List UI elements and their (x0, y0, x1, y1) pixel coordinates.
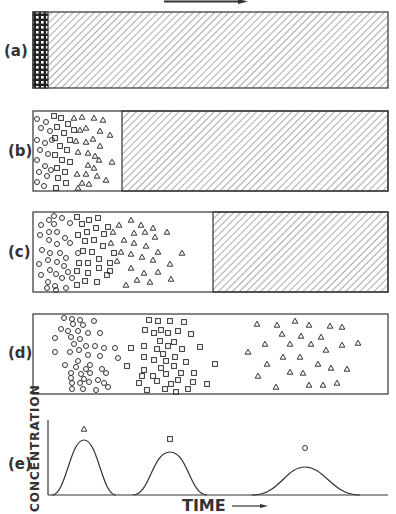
panel-label-b: (b) (8, 142, 32, 160)
panel-label-a: (a) (4, 42, 28, 60)
peak-circle (252, 467, 360, 495)
panel-a (33, 12, 388, 88)
y-axis-label: CONCENTRATION (28, 384, 42, 512)
peak-square (133, 452, 207, 495)
panel-b (33, 111, 388, 191)
flow-arrow-icon (164, 0, 248, 4)
peak-triangle (52, 440, 116, 495)
panel-c (33, 212, 388, 293)
triangle-icon (81, 426, 87, 431)
panel-label-d: (d) (8, 344, 32, 362)
chromatography-diagram (0, 0, 396, 514)
square-icon (168, 437, 173, 442)
time-arrow-icon (232, 504, 268, 508)
chromatogram (48, 420, 388, 508)
panel-d (33, 314, 388, 394)
circle-icon (303, 446, 308, 451)
panel-label-c: (c) (8, 243, 31, 261)
x-axis-label: TIME (182, 496, 226, 514)
